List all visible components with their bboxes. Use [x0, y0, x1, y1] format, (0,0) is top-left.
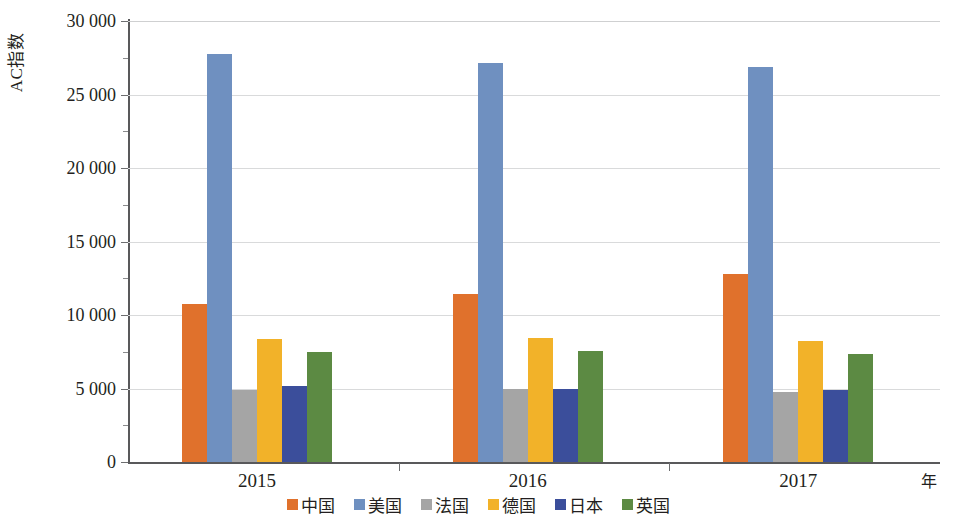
- gridline: [128, 242, 940, 243]
- y-axis-minor-tick: [123, 278, 128, 279]
- bar: [848, 354, 873, 462]
- legend-swatch-icon: [421, 499, 432, 510]
- legend-item-label: 德国: [502, 492, 536, 515]
- x-axis-category-separator: [669, 463, 670, 471]
- legend-item-label: 中国: [301, 492, 335, 515]
- legend-swatch-icon: [555, 499, 566, 510]
- y-axis-tick-label: 10 000: [67, 305, 117, 326]
- y-axis-tick: [121, 95, 128, 96]
- bar: [282, 386, 307, 462]
- legend-item: 法国: [421, 492, 469, 515]
- bar: [748, 67, 773, 462]
- bar: [207, 54, 232, 462]
- gridline: [128, 21, 940, 22]
- bar: [578, 351, 603, 462]
- y-axis-title: AC指数: [2, 10, 28, 130]
- y-axis-tick-label: 5 000: [76, 378, 117, 399]
- y-axis-tick: [121, 462, 128, 463]
- legend-item-label: 美国: [368, 492, 402, 515]
- gridline: [128, 315, 940, 316]
- y-axis-minor-tick: [123, 425, 128, 426]
- bar: [773, 392, 798, 462]
- y-axis-minor-tick: [123, 205, 128, 206]
- bar: [553, 389, 578, 462]
- y-axis-tick: [121, 21, 128, 22]
- y-axis-tick-label: 20 000: [67, 158, 117, 179]
- bar: [478, 63, 503, 462]
- legend-item: 德国: [488, 492, 536, 515]
- y-axis-tick-label: 0: [107, 452, 116, 473]
- bar: [528, 338, 553, 462]
- y-axis-tick: [121, 389, 128, 390]
- legend-swatch-icon: [622, 499, 633, 510]
- x-axis-tick-label: 2015: [238, 470, 276, 492]
- bar-chart: AC指数 05 00010 00015 00020 00025 00030 00…: [0, 0, 957, 515]
- legend-swatch-icon: [488, 499, 499, 510]
- bar: [503, 389, 528, 463]
- y-axis-minor-tick: [123, 352, 128, 353]
- legend-item-label: 英国: [636, 492, 670, 515]
- bar: [307, 352, 332, 462]
- x-axis-category-separator: [399, 463, 400, 471]
- legend-item-label: 日本: [569, 492, 603, 515]
- plot-area: 05 00010 00015 00020 00025 00030 000: [128, 21, 940, 462]
- bar: [823, 390, 848, 462]
- bar: [182, 304, 207, 462]
- legend-swatch-icon: [287, 499, 298, 510]
- y-axis-tick: [121, 315, 128, 316]
- legend-item: 英国: [622, 492, 670, 515]
- gridline: [128, 95, 940, 96]
- x-axis-unit-label: 年: [921, 468, 937, 492]
- legend-item: 中国: [287, 492, 335, 515]
- legend-item: 美国: [354, 492, 402, 515]
- legend-item: 日本: [555, 492, 603, 515]
- y-axis-tick: [121, 168, 128, 169]
- y-axis-tick-label: 30 000: [67, 11, 117, 32]
- gridline: [128, 168, 940, 169]
- y-axis-tick-label: 15 000: [67, 231, 117, 252]
- legend-swatch-icon: [354, 499, 365, 510]
- bar: [453, 294, 478, 462]
- bar: [723, 274, 748, 462]
- bar: [232, 390, 257, 462]
- y-axis-title-label: AC指数: [3, 33, 28, 93]
- x-axis-tick-label: 2017: [779, 470, 817, 492]
- y-axis-minor-tick: [123, 58, 128, 59]
- y-axis-tick: [121, 242, 128, 243]
- y-axis-minor-tick: [123, 131, 128, 132]
- bar: [798, 341, 823, 462]
- bar: [257, 339, 282, 462]
- legend-item-label: 法国: [435, 492, 469, 515]
- chart-legend: 中国美国法国德国日本英国: [0, 492, 957, 515]
- x-axis-tick-label: 2016: [509, 470, 547, 492]
- y-axis-tick-label: 25 000: [67, 84, 117, 105]
- x-axis-line: [128, 462, 940, 464]
